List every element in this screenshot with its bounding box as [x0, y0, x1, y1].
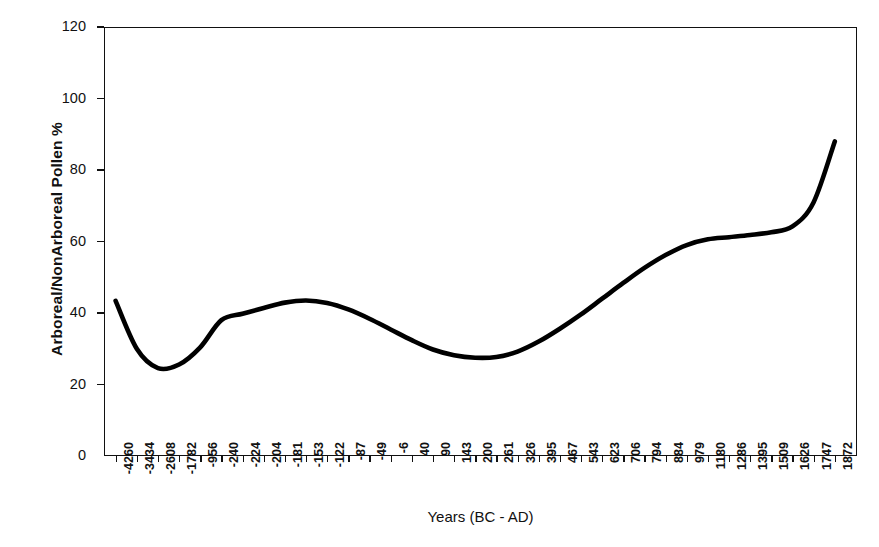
x-axis-tick-mark — [687, 456, 688, 462]
x-axis-tick-mark — [814, 456, 815, 462]
x-axis-tick-label: 1747 — [820, 442, 834, 502]
x-axis-tick-mark — [581, 456, 582, 462]
x-axis-tick-mark — [200, 456, 201, 462]
x-axis-title: Years (BC - AD) — [104, 508, 857, 525]
x-axis-tick-mark — [644, 456, 645, 462]
x-axis-tick-label: -4260 — [122, 442, 136, 502]
x-axis-tick-label: -956 — [206, 442, 220, 502]
x-axis-tick-label: -181 — [291, 442, 305, 502]
x-axis-tick-mark — [771, 456, 772, 462]
x-axis-tick-mark — [306, 456, 307, 462]
x-axis-tick-mark — [729, 456, 730, 462]
x-axis-tick-mark — [179, 456, 180, 462]
x-axis-tick-label: -224 — [249, 442, 263, 502]
x-axis-tick-label: -204 — [270, 442, 284, 502]
x-axis-tick-mark — [391, 456, 392, 462]
x-axis-tick-label: 979 — [693, 442, 707, 502]
x-axis-tick-mark — [602, 456, 603, 462]
x-axis-tick-mark — [518, 456, 519, 462]
x-axis-tick-mark — [348, 456, 349, 462]
x-axis-tick-label: 884 — [672, 442, 686, 502]
x-axis-tick-mark — [792, 456, 793, 462]
x-axis-tick-mark — [475, 456, 476, 462]
x-axis-tick-mark — [708, 456, 709, 462]
x-axis-tick-mark — [327, 456, 328, 462]
x-axis-tick-mark — [835, 456, 836, 462]
x-axis-tick-mark — [116, 456, 117, 462]
x-axis-tick-mark — [623, 456, 624, 462]
x-axis-tick-label: -153 — [312, 442, 326, 502]
x-axis-tick-label: 623 — [608, 442, 622, 502]
x-axis-tick-mark — [137, 456, 138, 462]
x-axis-tick-label: 1509 — [777, 442, 791, 502]
x-axis-tick-label: -1782 — [185, 442, 199, 502]
x-axis-tick-label: 40 — [418, 442, 432, 502]
x-axis-tick-mark — [454, 456, 455, 462]
y-axis-tick-mark — [97, 312, 104, 314]
pollen-line-chart: Arboreal/NonArboreal Pollen % 1201008060… — [0, 0, 879, 547]
x-axis-tick-label: 326 — [524, 442, 538, 502]
y-axis-tick-mark — [97, 241, 104, 243]
x-axis-tick-label: 395 — [545, 442, 559, 502]
y-axis-tick-mark — [97, 169, 104, 171]
x-axis-tick-mark — [496, 456, 497, 462]
x-axis-tick-label: -240 — [227, 442, 241, 502]
x-axis-tick-label: -49 — [375, 442, 389, 502]
x-axis-tick-mark — [158, 456, 159, 462]
x-axis-tick-mark — [560, 456, 561, 462]
x-axis-tick-label: 543 — [587, 442, 601, 502]
y-axis-tick-mark — [97, 26, 104, 28]
x-axis-tick-label: 200 — [481, 442, 495, 502]
x-axis-tick-mark — [666, 456, 667, 462]
x-axis-tick-label: -6 — [397, 442, 411, 502]
x-axis-tick-label: 1872 — [841, 442, 855, 502]
x-axis-tick-label: 1395 — [756, 442, 770, 502]
x-axis-tick-label: 706 — [629, 442, 643, 502]
x-axis-tick-label: 90 — [439, 442, 453, 502]
x-axis-tick-label: 1180 — [714, 442, 728, 502]
x-axis-tick-label: 143 — [460, 442, 474, 502]
x-axis-tick-label: 467 — [566, 442, 580, 502]
x-axis-tick-mark — [433, 456, 434, 462]
y-axis-tick-mark — [97, 98, 104, 100]
x-axis-tick-label: 794 — [650, 442, 664, 502]
x-axis-tick-label: 1626 — [798, 442, 812, 502]
x-axis-tick-label: -122 — [333, 442, 347, 502]
x-axis-tick-mark — [750, 456, 751, 462]
x-axis-tick-mark — [285, 456, 286, 462]
x-axis-tick-mark — [539, 456, 540, 462]
x-axis-tick-mark — [369, 456, 370, 462]
x-axis-tick-labels: -4260-3434-2608-1782-956-240-224-204-181… — [0, 0, 879, 547]
x-axis-tick-mark — [221, 456, 222, 462]
x-axis-tick-label: 261 — [502, 442, 516, 502]
x-axis-tick-label: -3434 — [143, 442, 157, 502]
x-axis-tick-mark — [243, 456, 244, 462]
x-axis-tick-label: 1286 — [735, 442, 749, 502]
x-axis-tick-label: -87 — [354, 442, 368, 502]
x-axis-tick-mark — [264, 456, 265, 462]
x-axis-tick-label: -2608 — [164, 442, 178, 502]
x-axis-tick-mark — [412, 456, 413, 462]
y-axis-tick-mark — [97, 384, 104, 386]
